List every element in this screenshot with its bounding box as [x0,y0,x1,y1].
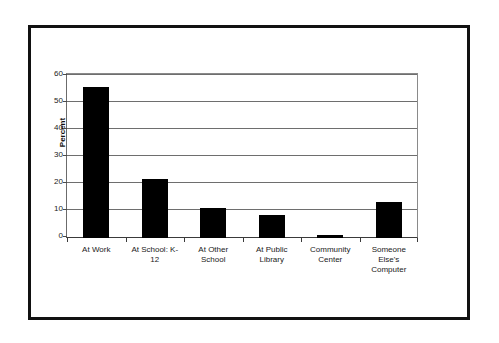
x-axis-tick-label-line: Center [301,255,360,265]
x-axis-tick-label-line: At School: K- [126,245,185,255]
bar-slot [360,74,419,238]
x-axis-tick-mark [360,238,361,242]
bar-slot [243,74,302,238]
x-axis-tick-mark [67,238,68,242]
y-axis-tick-label: 0 [41,232,63,240]
bar[interactable] [200,208,226,238]
bar[interactable] [83,87,109,238]
x-axis-tick-label-line: School [184,255,243,265]
bar[interactable] [142,179,168,238]
x-axis-tick-mark [417,238,418,242]
x-axis-tick-label-line: Computer [360,265,419,275]
y-axis-tick-label: 30 [41,151,63,159]
x-axis-tick-mark [126,238,127,242]
x-axis-tick-label: At OtherSchool [184,245,243,265]
x-axis-tick-label-line: 12 [126,255,185,265]
x-axis-tick-label-line: At Public [243,245,302,255]
bar-slot [184,74,243,238]
x-axis-tick-label-line: At Other [184,245,243,255]
bar-slot [301,74,360,238]
x-axis-tick-label-line: At Work [67,245,126,255]
x-axis-tick-mark [301,238,302,242]
y-axis-tick-label: 40 [41,124,63,132]
x-axis-tick-label: SomeoneElse'sComputer [360,245,419,275]
y-axis-tick-label: 60 [41,70,63,78]
x-axis-tick-label-line: Library [243,255,302,265]
x-axis-tick-mark [243,238,244,242]
x-axis-tick-label-line: Else's [360,255,419,265]
y-axis-tick-label: 50 [41,97,63,105]
x-axis-tick-label: At School: K-12 [126,245,185,265]
x-axis-tick-label-line: Community [301,245,360,255]
y-axis-tick-label: 10 [41,205,63,213]
x-axis-tick-mark [184,238,185,242]
y-axis-tick-label: 20 [41,178,63,186]
x-axis-tick-label: At PublicLibrary [243,245,302,265]
figure-frame: Percent 0102030405060 At WorkAt School: … [28,25,470,320]
bar-chart: Percent 0102030405060 At WorkAt School: … [31,28,467,317]
y-axis-tick-labels: 0102030405060 [39,73,63,239]
bar-slot [126,74,185,238]
x-axis-tick-labels: At WorkAt School: K-12At OtherSchoolAt P… [67,245,418,295]
x-axis-tick-label-line: Someone [360,245,419,255]
bar-slot [67,74,126,238]
x-axis-tick-marks [67,238,418,243]
x-axis-tick-label: CommunityCenter [301,245,360,265]
bar[interactable] [376,202,402,238]
x-axis-tick-label: At Work [67,245,126,255]
bar[interactable] [259,215,285,238]
bars-layer [67,74,418,238]
